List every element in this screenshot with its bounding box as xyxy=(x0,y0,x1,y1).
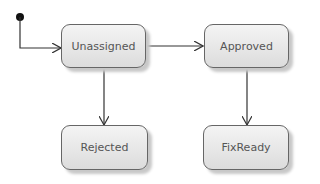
state-label: Rejected xyxy=(81,141,129,154)
state-label: Unassigned xyxy=(72,40,136,53)
state-label: FixReady xyxy=(221,141,270,154)
state-fixready[interactable]: FixReady xyxy=(203,125,289,170)
state-rejected[interactable]: Rejected xyxy=(61,125,148,170)
state-label: Approved xyxy=(220,40,273,53)
transition-initial-to-unassigned xyxy=(20,17,61,48)
state-unassigned[interactable]: Unassigned xyxy=(61,24,146,68)
state-approved[interactable]: Approved xyxy=(204,24,289,68)
